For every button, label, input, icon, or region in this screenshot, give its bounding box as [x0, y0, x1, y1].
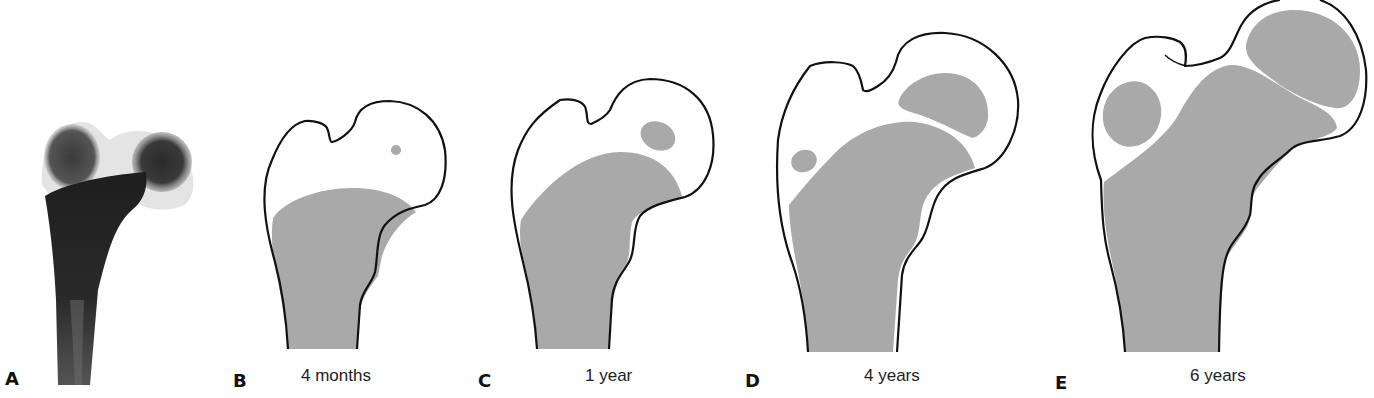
panel-e-drawing	[1093, 0, 1367, 352]
panel-b-head-nucleus	[391, 145, 401, 155]
panel-b-caption: 4 months	[301, 366, 371, 386]
panel-d-trochanter-nucleus	[788, 146, 820, 176]
femur-ossification-figure	[0, 0, 1374, 398]
panel-c-head-nucleus	[636, 116, 680, 157]
panel-c-metaphysis-fill	[520, 152, 682, 349]
panel-d-caption: 4 years	[864, 366, 920, 386]
panel-e-letter: E	[1055, 372, 1067, 393]
panel-c-drawing	[511, 79, 713, 349]
panel-a-radiograph	[42, 122, 194, 385]
panel-b-letter: B	[233, 370, 247, 391]
panel-c-letter: C	[478, 370, 491, 391]
panel-e-capsule-tip	[1165, 55, 1186, 66]
panel-d-metaphysis-fill	[789, 122, 975, 352]
panel-d-letter: D	[745, 370, 760, 391]
panel-b-metaphysis-fill	[272, 188, 416, 349]
radiograph-shaft	[45, 172, 147, 385]
panel-b-drawing	[264, 101, 445, 349]
panel-a-letter: A	[5, 368, 19, 389]
panel-d-drawing	[777, 33, 1018, 352]
panel-e-caption: 6 years	[1190, 366, 1246, 386]
panel-c-caption: 1 year	[585, 366, 632, 386]
